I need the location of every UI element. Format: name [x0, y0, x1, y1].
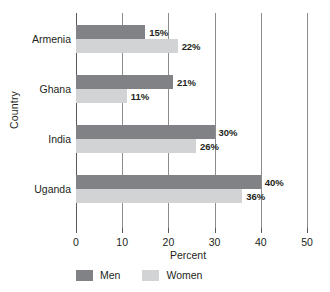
bar-value-armenia-men: 15% — [149, 27, 168, 38]
bar-armenia-men — [76, 25, 145, 39]
x-axis-title: Percent — [0, 249, 330, 261]
bar-india-men — [76, 125, 215, 139]
bar-value-uganda-men: 40% — [265, 177, 284, 188]
bar-value-india-men: 30% — [219, 127, 238, 138]
y-tick-label-armenia: Armenia — [1, 33, 71, 45]
legend-label-women: Women — [166, 269, 202, 281]
x-tick-0 — [76, 228, 77, 233]
bar-value-ghana-women: 11% — [131, 91, 149, 102]
x-tick-label-10: 10 — [102, 236, 142, 248]
y-tick-label-ghana: Ghana — [1, 83, 71, 95]
y-tick-label-india: India — [1, 133, 71, 145]
bar-uganda-women — [76, 189, 242, 203]
legend-label-men: Men — [100, 269, 120, 281]
gridline-50 — [307, 13, 308, 228]
x-tick-label-20: 20 — [148, 236, 188, 248]
y-tick-label-uganda: Uganda — [1, 183, 71, 195]
bar-value-ghana-men: 21% — [177, 77, 196, 88]
bar-value-armenia-women: 22% — [182, 41, 201, 52]
legend-item-women[interactable]: Women — [142, 269, 202, 281]
x-tick-label-0: 0 — [56, 236, 96, 248]
x-tick-label-30: 30 — [195, 236, 235, 248]
plot-area: 15%22%21%11%30%26%40%36% — [76, 13, 307, 228]
bar-ghana-men — [76, 75, 173, 89]
bar-uganda-men — [76, 175, 261, 189]
x-tick-label-50: 50 — [287, 236, 327, 248]
legend-swatch-women-icon — [142, 270, 159, 281]
x-tick-30 — [215, 228, 216, 233]
legend-item-men[interactable]: Men — [76, 269, 120, 281]
bar-ghana-women — [76, 89, 127, 103]
bar-value-uganda-women: 36% — [246, 191, 265, 202]
x-tick-10 — [122, 228, 123, 233]
bar-chart: Country 15%22%21%11%30%26%40%36% Armenia… — [0, 0, 330, 292]
bar-value-india-women: 26% — [200, 141, 219, 152]
bar-armenia-women — [76, 39, 178, 53]
x-tick-label-40: 40 — [241, 236, 281, 248]
x-tick-40 — [261, 228, 262, 233]
bar-india-women — [76, 139, 196, 153]
legend-swatch-men-icon — [76, 270, 93, 281]
chart-legend: Men Women — [76, 269, 202, 281]
x-tick-50 — [307, 228, 308, 233]
x-tick-20 — [168, 228, 169, 233]
